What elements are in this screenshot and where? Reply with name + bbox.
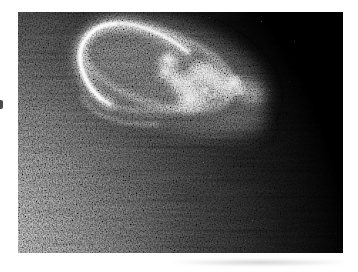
photo-shadow-artifact	[170, 259, 350, 266]
aurora-photograph	[18, 12, 343, 253]
aurora-photograph-canvas	[18, 12, 343, 253]
page-background	[0, 0, 358, 272]
page-edge-mark	[0, 100, 3, 109]
bright-specks-overlay	[18, 12, 343, 253]
